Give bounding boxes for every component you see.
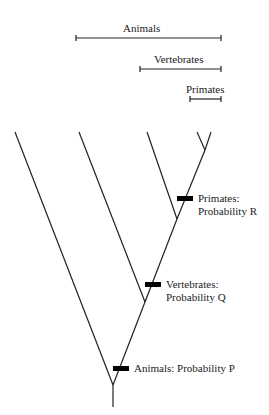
range-bar-animals (76, 35, 221, 41)
node-label-vertebrates-line1: Vertebrates: (166, 278, 226, 291)
branch-leaf-1 (15, 132, 113, 385)
range-label-animals: Animals (123, 22, 160, 35)
range-label-vertebrates: Vertebrates (154, 53, 203, 66)
node-label-animals: Animals: Probability P (134, 362, 235, 375)
node-label-primates: Primates: Probability R (198, 192, 257, 218)
marker-vertebrates (145, 282, 161, 287)
range-bar-vertebrates (140, 66, 221, 72)
node-label-primates-line1: Primates: (198, 192, 257, 205)
node-label-vertebrates: Vertebrates: Probability Q (166, 278, 226, 304)
range-bar-primates (190, 96, 221, 102)
branch-leaf-2 (79, 132, 145, 302)
marker-primates (177, 196, 193, 201)
branch-leaf-3 (147, 132, 177, 219)
branch-leaf-5 (205, 132, 211, 150)
range-label-primates: Primates (186, 83, 225, 96)
marker-animals (113, 366, 129, 371)
node-label-vertebrates-line2: Probability Q (166, 291, 226, 304)
branch-leaf-4 (197, 132, 205, 150)
node-label-primates-line2: Probability R (198, 205, 257, 218)
node-label-animals-line1: Animals: Probability P (134, 362, 235, 375)
